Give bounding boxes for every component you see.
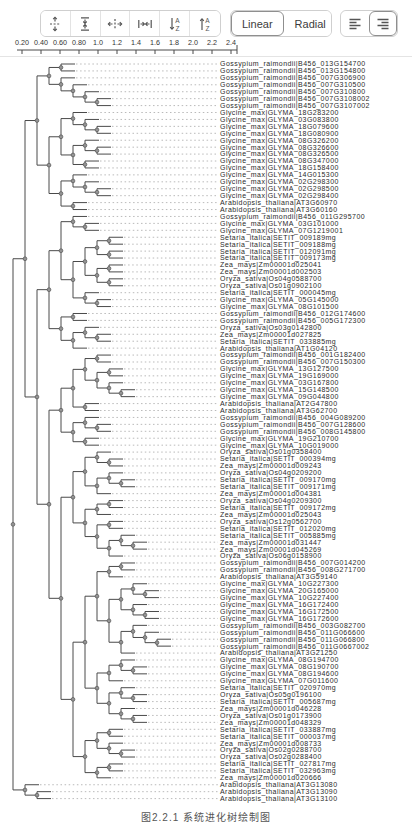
internal-node[interactable] [83, 260, 87, 264]
internal-node[interactable] [71, 315, 75, 319]
internal-node[interactable] [95, 149, 99, 153]
internal-node[interactable] [143, 592, 147, 596]
internal-node[interactable] [71, 338, 75, 342]
internal-node[interactable] [71, 495, 75, 499]
internal-node[interactable] [59, 249, 63, 253]
internal-node[interactable] [83, 331, 87, 335]
internal-node[interactable] [59, 135, 63, 139]
internal-node[interactable] [107, 619, 111, 623]
internal-node[interactable] [119, 597, 123, 601]
internal-node[interactable] [35, 793, 39, 797]
internal-node[interactable] [107, 731, 111, 735]
internal-node[interactable] [131, 544, 135, 548]
internal-node[interactable] [107, 253, 111, 257]
internal-node[interactable] [107, 671, 111, 675]
internal-node[interactable] [95, 357, 99, 361]
internal-node[interactable] [59, 192, 63, 196]
internal-node[interactable] [83, 163, 87, 167]
internal-node[interactable] [95, 301, 99, 305]
internal-node[interactable] [83, 640, 87, 644]
internal-node[interactable] [71, 697, 75, 701]
internal-node[interactable] [95, 190, 99, 194]
internal-node[interactable] [119, 752, 123, 756]
internal-node[interactable] [107, 386, 111, 390]
internal-node[interactable] [83, 95, 87, 99]
internal-node[interactable] [119, 691, 123, 695]
internal-node[interactable] [95, 535, 99, 539]
internal-node[interactable] [83, 296, 87, 300]
internal-node[interactable] [107, 570, 111, 574]
internal-node[interactable] [107, 766, 111, 770]
internal-node[interactable] [95, 686, 99, 690]
internal-node[interactable] [95, 246, 99, 250]
internal-node[interactable] [95, 455, 99, 459]
internal-node[interactable] [83, 470, 87, 474]
internal-node[interactable] [71, 220, 75, 224]
internal-node[interactable] [83, 225, 87, 229]
internal-node[interactable] [71, 179, 75, 183]
internal-node[interactable] [23, 788, 27, 792]
internal-node[interactable] [83, 755, 87, 759]
internal-node[interactable] [131, 608, 135, 612]
internal-node[interactable] [131, 587, 135, 591]
internal-node[interactable] [107, 701, 111, 705]
internal-node[interactable] [95, 100, 99, 104]
internal-node[interactable] [107, 746, 111, 750]
internal-node[interactable] [59, 596, 63, 600]
internal-node[interactable] [83, 367, 87, 371]
internal-node[interactable] [23, 257, 27, 261]
internal-node[interactable] [131, 630, 135, 634]
internal-node[interactable] [83, 521, 87, 525]
internal-node[interactable] [47, 163, 51, 167]
internal-node[interactable] [59, 327, 63, 331]
internal-node[interactable] [119, 539, 123, 543]
internal-node[interactable] [119, 391, 123, 395]
internal-node[interactable] [59, 82, 63, 86]
internal-node[interactable] [83, 123, 87, 127]
internal-node[interactable] [131, 696, 135, 700]
internal-node[interactable] [59, 408, 63, 412]
internal-node[interactable] [107, 280, 111, 284]
internal-node[interactable] [83, 185, 87, 189]
internal-node[interactable] [107, 267, 111, 271]
internal-node[interactable] [131, 668, 135, 672]
internal-node[interactable] [107, 523, 111, 527]
internal-node[interactable] [131, 717, 135, 721]
leaf-label[interactable]: Arabidopsis_thaliana|AT3G13100 [220, 795, 338, 803]
internal-node[interactable] [119, 481, 123, 485]
internal-node[interactable] [143, 636, 147, 640]
internal-node[interactable] [47, 288, 51, 292]
internal-node[interactable] [83, 440, 87, 444]
internal-node[interactable] [95, 484, 99, 488]
internal-node[interactable] [119, 565, 123, 569]
internal-node[interactable] [47, 74, 51, 78]
internal-node[interactable] [59, 66, 63, 70]
internal-node[interactable] [119, 712, 123, 716]
internal-node[interactable] [107, 502, 111, 506]
internal-node[interactable] [95, 128, 99, 132]
internal-node[interactable] [71, 153, 75, 157]
internal-node[interactable] [155, 641, 159, 645]
internal-node[interactable] [71, 278, 75, 282]
internal-node[interactable] [95, 771, 99, 775]
internal-node[interactable] [95, 507, 99, 511]
internal-node[interactable] [95, 739, 99, 743]
internal-node[interactable] [71, 386, 75, 390]
internal-node[interactable] [71, 117, 75, 121]
internal-node[interactable] [35, 119, 39, 123]
internal-node[interactable] [47, 502, 51, 506]
internal-node[interactable] [107, 476, 111, 480]
internal-node[interactable] [107, 239, 111, 243]
internal-node[interactable] [71, 204, 75, 208]
internal-node[interactable] [95, 336, 99, 340]
internal-node[interactable] [83, 144, 87, 148]
internal-node[interactable] [119, 640, 123, 644]
internal-node[interactable] [35, 395, 39, 399]
internal-node[interactable] [95, 594, 99, 598]
internal-node[interactable] [83, 421, 87, 425]
internal-node[interactable] [107, 370, 111, 374]
internal-node[interactable] [95, 378, 99, 382]
internal-node[interactable] [71, 430, 75, 434]
internal-node[interactable] [119, 663, 123, 667]
internal-node[interactable] [71, 89, 75, 93]
